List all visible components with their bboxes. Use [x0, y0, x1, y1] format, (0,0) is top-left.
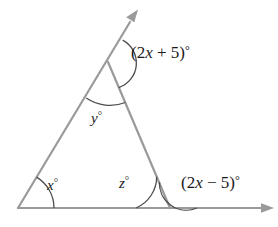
left-side-ray-line [18, 22, 130, 208]
label-2x-plus-5: (2x + 5)° [131, 43, 190, 62]
right-side-segment [108, 62, 170, 208]
label-x-degree: ° [54, 176, 58, 188]
label-2x-minus-5-operator: − [203, 173, 221, 192]
figure-canvas: (2x + 5)° (2x − 5)° y° x° z° [0, 0, 278, 227]
label-y-degree: ° [98, 109, 102, 121]
label-z: z° [118, 174, 129, 191]
label-2x-plus-5-coefficient: 2 [137, 43, 146, 62]
label-2x-plus-5-operator: + [153, 43, 171, 62]
base-ray-arrowhead [261, 203, 274, 213]
label-2x-plus-5-constant: 5 [171, 43, 180, 62]
label-2x-plus-5-degree: ° [185, 43, 190, 57]
label-2x-minus-5-constant: 5 [221, 173, 230, 192]
label-y: y° [89, 109, 102, 126]
angle-arc-y [86, 98, 125, 105]
angle-arcs [37, 40, 197, 210]
label-z-degree: ° [125, 174, 129, 186]
left-side-ray-arrowhead [126, 10, 138, 23]
label-y-variable: y [89, 110, 98, 126]
angle-labels: (2x + 5)° (2x − 5)° y° x° z° [46, 43, 240, 193]
geometry-figure: (2x + 5)° (2x − 5)° y° x° z° [0, 0, 278, 227]
label-x: x° [46, 176, 58, 193]
angle-arc-z [136, 177, 157, 208]
label-2x-minus-5-degree: ° [235, 173, 240, 187]
label-2x-minus-5-coefficient: 2 [187, 173, 196, 192]
label-2x-minus-5: (2x − 5)° [181, 173, 240, 192]
